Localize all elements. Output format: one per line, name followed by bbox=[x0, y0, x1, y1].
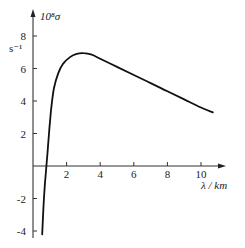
y-tick-label: 2 bbox=[21, 128, 27, 140]
x-tick-label: 6 bbox=[131, 168, 137, 180]
y-tick-label: 6 bbox=[21, 63, 27, 75]
y-axis-unit: s⁻¹ bbox=[9, 42, 22, 54]
y-axis-arrow-icon bbox=[31, 9, 36, 17]
x-axis-label: λ / km bbox=[200, 179, 227, 191]
axes bbox=[31, 9, 227, 238]
ticks: 2468108642-2-4 bbox=[17, 30, 207, 237]
x-tick-label: 4 bbox=[97, 168, 103, 180]
x-tick-label: 8 bbox=[165, 168, 171, 180]
x-tick-label: 2 bbox=[64, 168, 70, 180]
line-chart: 2468108642-2-4 10⁸σ s⁻¹ λ / km bbox=[0, 0, 245, 248]
data-curve bbox=[42, 53, 213, 234]
x-axis-arrow-icon bbox=[218, 164, 226, 169]
chart-container: 2468108642-2-4 10⁸σ s⁻¹ λ / km bbox=[0, 0, 245, 248]
y-tick-label: -2 bbox=[17, 193, 26, 205]
y-tick-label: 4 bbox=[21, 95, 27, 107]
y-tick-label: -4 bbox=[17, 225, 27, 237]
y-tick-label: 8 bbox=[21, 30, 27, 42]
y-axis-label: 10⁸σ bbox=[40, 10, 61, 22]
